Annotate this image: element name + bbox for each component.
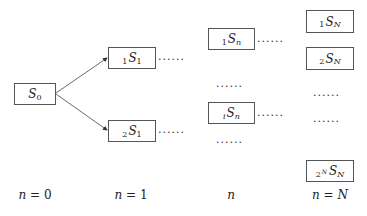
ellipsis-dots: ...... xyxy=(313,114,340,124)
label-val: 1 xyxy=(140,188,148,202)
node-symbol: S xyxy=(128,51,136,65)
node-prefix: i xyxy=(223,112,226,121)
node-subscript: n xyxy=(235,112,240,121)
node-symbol: S xyxy=(227,106,235,120)
ellipsis-dots: ...... xyxy=(216,79,243,89)
label-val: N xyxy=(337,188,348,202)
node-subscript: N xyxy=(334,57,341,66)
node-1sn: 1Sn xyxy=(208,28,255,50)
stage-label-n1: n = 1 xyxy=(101,188,161,202)
node-s0: S0 xyxy=(14,83,56,105)
stage-label-nN: n = N xyxy=(300,188,360,202)
node-subscript: N xyxy=(334,20,341,29)
arrow-to-1s1 xyxy=(56,58,107,93)
arrow-to-2s1 xyxy=(56,94,107,130)
label-var: n xyxy=(227,188,235,202)
node-subscript: 1 xyxy=(137,130,142,139)
continuation-dots: ...... xyxy=(257,34,284,44)
node-1s1: 1S1 xyxy=(108,47,156,69)
node-prefix: 1 xyxy=(319,20,324,29)
node-symbol: S xyxy=(325,52,333,66)
ellipsis-dots: ...... xyxy=(216,135,243,145)
label-eq: = xyxy=(26,188,44,202)
label-var: n xyxy=(312,188,320,202)
node-2sN: 2SN xyxy=(306,47,354,70)
node-symbol: S xyxy=(128,124,136,138)
ellipsis-dots: ...... xyxy=(313,88,340,98)
node-2s1: 2S1 xyxy=(108,120,156,142)
node-prefix: 2 xyxy=(316,170,321,179)
node-symbol: S xyxy=(228,32,236,46)
stage-label-n0: n = 0 xyxy=(5,188,65,202)
stage-label-n: n xyxy=(201,188,261,202)
node-subscript: 0 xyxy=(37,93,42,102)
node-subscript: n xyxy=(236,38,241,47)
continuation-dots: ...... xyxy=(158,125,185,135)
label-eq: = xyxy=(122,188,140,202)
label-val: 0 xyxy=(44,188,52,202)
node-prefix: 2 xyxy=(122,130,127,139)
node-prefix: 2 xyxy=(319,57,324,66)
node-prefix: 1 xyxy=(222,38,227,47)
node-isn: iSn xyxy=(208,102,255,124)
continuation-dots: ...... xyxy=(158,52,185,62)
node-1sN: 1SN xyxy=(306,10,354,33)
node-subscript: 1 xyxy=(137,57,142,66)
continuation-dots: ...... xyxy=(257,108,284,118)
node-symbol: S xyxy=(28,87,36,101)
node-symbol: S xyxy=(325,15,333,29)
label-eq: = xyxy=(320,188,338,202)
node-subscript: N xyxy=(337,170,344,179)
node-prefix: 1 xyxy=(122,57,127,66)
node-prefix-exponent: N xyxy=(322,168,327,175)
node-2NsN: 2NSN xyxy=(306,160,354,182)
